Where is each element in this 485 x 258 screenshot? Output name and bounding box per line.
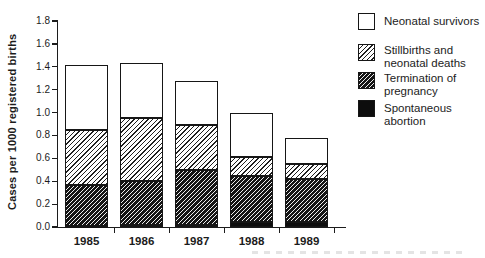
- y-tick-label: 1.0: [24, 108, 50, 118]
- y-tick-label: 1.2: [24, 85, 50, 95]
- legend-label: Spontaneous abortion: [384, 100, 483, 128]
- x-axis-label-1989: 1989: [282, 235, 332, 247]
- x-tick-mark: [279, 228, 280, 233]
- legend-item: Stillbirths and neonatal deaths: [358, 44, 466, 70]
- y-tick-mark: [52, 89, 57, 90]
- bar-segment-1987-solid-black: [175, 225, 218, 227]
- y-tick-mark: [52, 226, 57, 227]
- y-tick-mark: [52, 135, 57, 136]
- legend-item: Spontaneous abortion: [358, 100, 483, 128]
- x-tick-mark: [334, 228, 335, 233]
- bar-segment-1988-dense-hatch: [230, 176, 273, 223]
- bar-segment-1985-white: [65, 65, 108, 130]
- legend-item: Termination of pregnancy: [358, 72, 456, 98]
- bar-segment-1985-solid-black: [65, 226, 108, 228]
- bar-segment-1985-dense-hatch: [65, 185, 108, 226]
- y-tick-label: 0.4: [24, 176, 50, 186]
- x-axis-label-1986: 1986: [117, 235, 167, 247]
- bar-segment-1987-light-hatch: [175, 125, 218, 170]
- bar-segment-1986-light-hatch: [120, 118, 163, 181]
- legend-swatch-white: [358, 13, 375, 30]
- y-tick-mark: [52, 158, 57, 159]
- bar-segment-1989-white: [285, 138, 328, 164]
- y-tick-mark: [52, 112, 57, 113]
- y-tick-mark: [52, 43, 57, 44]
- y-tick-label: 0.0: [24, 222, 50, 232]
- y-axis-title: Cases per 1000 registered births: [6, 40, 20, 210]
- legend-swatch-dense-hatch: [358, 72, 375, 89]
- bar-segment-1988-white: [230, 113, 273, 158]
- y-axis-line: [57, 20, 58, 228]
- bar-segment-1989-light-hatch: [285, 164, 328, 179]
- bar-segment-1988-solid-black: [230, 222, 273, 227]
- y-tick-mark: [52, 204, 57, 205]
- bar-segment-1986-white: [120, 63, 163, 118]
- bar-segment-1986-solid-black: [120, 225, 163, 227]
- x-axis-label-1985: 1985: [62, 235, 112, 247]
- y-tick-label: 0.8: [24, 130, 50, 140]
- legend-item: Neonatal survivors: [358, 13, 479, 30]
- x-tick-mark: [224, 228, 225, 233]
- legend-label: Neonatal survivors: [384, 13, 479, 28]
- y-tick-label: 1.6: [24, 39, 50, 49]
- y-tick-mark: [52, 66, 57, 67]
- y-tick-mark: [52, 181, 57, 182]
- y-tick-label: 0.6: [24, 153, 50, 163]
- x-axis-label-1987: 1987: [172, 235, 222, 247]
- y-tick-label: 1.4: [24, 62, 50, 72]
- x-axis-label-1988: 1988: [227, 235, 277, 247]
- bar-segment-1987-white: [175, 81, 218, 126]
- bar-segment-1989-dense-hatch: [285, 179, 328, 222]
- x-tick-mark: [114, 228, 115, 233]
- legend-label: Stillbirths and neonatal deaths: [384, 44, 466, 70]
- bar-segment-1987-dense-hatch: [175, 170, 218, 225]
- bar-segment-1985-light-hatch: [65, 130, 108, 185]
- legend: Neonatal survivorsStillbirths and neonat…: [358, 0, 483, 130]
- stacked-bar-chart-figure: Cases per 1000 registered births 0.00.20…: [0, 0, 485, 258]
- x-tick-mark: [169, 228, 170, 233]
- y-tick-mark: [52, 20, 57, 21]
- y-tick-label: 0.2: [24, 199, 50, 209]
- bar-segment-1986-dense-hatch: [120, 181, 163, 224]
- legend-label: Termination of pregnancy: [384, 72, 456, 98]
- cutoff-caption-fragment: [252, 251, 462, 254]
- bar-segment-1989-solid-black: [285, 222, 328, 227]
- y-tick-label: 1.8: [24, 16, 50, 26]
- bar-segment-1988-light-hatch: [230, 157, 273, 175]
- legend-swatch-light-hatch: [358, 44, 375, 61]
- legend-swatch-solid-black: [358, 100, 375, 117]
